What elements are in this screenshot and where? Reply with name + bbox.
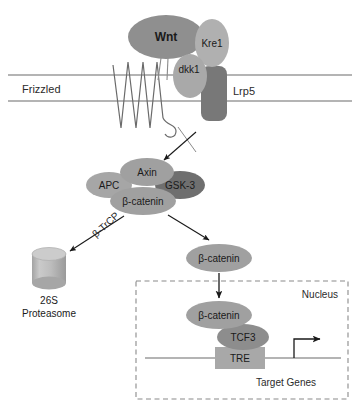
frizzled-label: Frizzled — [22, 83, 61, 95]
apc-label: APC — [99, 180, 120, 191]
lrp5-label: Lrp5 — [233, 85, 255, 97]
wnt-pathway-diagram: Wnt Kre1 dkk1 Frizzled Lrp5 APC Axin GSK… — [0, 0, 359, 407]
wnt-label: Wnt — [155, 30, 178, 44]
gsk3-label: GSK-3 — [165, 180, 195, 191]
beta-catenin-free: β-catenin — [186, 244, 252, 272]
beta-catenin-complex-label: β-catenin — [122, 196, 163, 207]
destruction-complex: APC Axin GSK-3 β-catenin — [86, 158, 205, 215]
beta-catenin-free-label: β-catenin — [198, 253, 239, 264]
beta-trcp-label: β-TrCP — [90, 210, 121, 240]
proteasome-caption-line2: Proteasome — [22, 308, 76, 319]
proteasome-caption-line1: 26S — [40, 295, 58, 306]
target-genes-label: Target Genes — [256, 377, 316, 388]
tcf3-label: TCF3 — [231, 332, 256, 343]
nucleus-label: Nucleus — [302, 289, 338, 300]
kre1-label: Kre1 — [201, 38, 223, 49]
axin-label: Axin — [137, 167, 156, 178]
proteasome-cylinder — [32, 248, 66, 290]
tre-label: TRE — [230, 353, 250, 364]
transcription-start-arrow — [294, 339, 320, 358]
dkk1-ligand: dkk1 — [173, 54, 207, 98]
beta-catenin-stabilization-arrow — [168, 215, 209, 240]
beta-catenin-nuclear-label: β-catenin — [198, 310, 239, 321]
dkk1-label: dkk1 — [178, 64, 200, 75]
dkk1-ellipse — [173, 54, 207, 98]
